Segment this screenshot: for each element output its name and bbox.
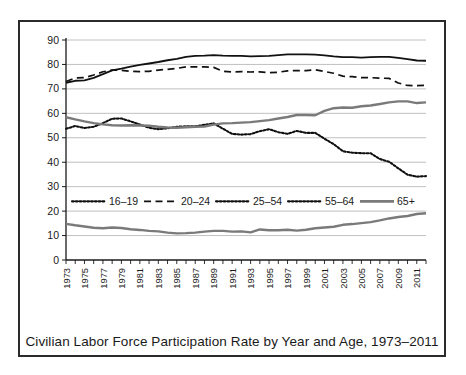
y-tick-label: 80 xyxy=(47,58,59,70)
y-tick-label: 20 xyxy=(47,205,59,217)
x-tick-label: 1973 xyxy=(62,268,72,289)
x-tick-label: 1993 xyxy=(246,268,256,289)
legend-label-25-54: 25–54 xyxy=(253,195,282,207)
x-tick-label: 1997 xyxy=(283,268,293,289)
legend-label-55-64: 55–64 xyxy=(325,195,354,207)
figure-caption: Civilian Labor Force Participation Rate … xyxy=(20,334,444,349)
series-line-25-54 xyxy=(66,54,426,82)
y-tick-label: 40 xyxy=(47,156,59,168)
y-tick-label: 10 xyxy=(47,229,59,241)
x-tick-label: 1989 xyxy=(209,268,219,289)
y-tick-label: 0 xyxy=(53,254,59,266)
y-tick-label: 30 xyxy=(47,180,59,192)
x-tick-label: 2003 xyxy=(339,268,349,289)
x-tick-label: 1987 xyxy=(191,268,201,289)
x-axis-ticks: 1973197519771979198119831985198719891991… xyxy=(62,260,426,289)
chart-legend: 16–1920–2425–5455–6465+ xyxy=(72,195,415,207)
line-chart: 0102030405060708090197319751977197919811… xyxy=(36,30,432,318)
legend-label-16-19: 16–19 xyxy=(109,195,138,207)
x-tick-label: 2009 xyxy=(394,268,404,289)
x-tick-label: 1975 xyxy=(80,268,90,289)
x-tick-label: 1981 xyxy=(135,268,145,289)
x-tick-label: 1991 xyxy=(228,268,238,289)
chart-plot-area: 0102030405060708090197319751977197919811… xyxy=(36,30,432,318)
x-tick-label: 1995 xyxy=(265,268,275,289)
x-tick-label: 2005 xyxy=(357,268,367,289)
y-tick-label: 60 xyxy=(47,107,59,119)
y-tick-label: 50 xyxy=(47,131,59,143)
legend-label-20-24: 20–24 xyxy=(181,195,210,207)
series-line-55-64 xyxy=(66,101,426,127)
figure-root: 0102030405060708090197319751977197919811… xyxy=(0,0,466,375)
x-tick-label: 1983 xyxy=(154,268,164,289)
x-tick-label: 2001 xyxy=(320,268,330,289)
x-tick-label: 1977 xyxy=(99,268,109,289)
legend-label-65+: 65+ xyxy=(397,195,415,207)
x-tick-label: 1979 xyxy=(117,268,127,289)
y-tick-label: 90 xyxy=(47,34,59,46)
figure-frame: 0102030405060708090197319751977197919811… xyxy=(18,20,446,357)
x-tick-label: 2011 xyxy=(412,268,422,288)
x-tick-label: 1999 xyxy=(302,268,312,289)
x-tick-label: 1985 xyxy=(172,268,182,289)
series-line-16-19 xyxy=(66,118,426,176)
x-tick-label: 2007 xyxy=(375,268,385,289)
series-line-65+ xyxy=(66,213,426,233)
y-tick-label: 70 xyxy=(47,82,59,94)
